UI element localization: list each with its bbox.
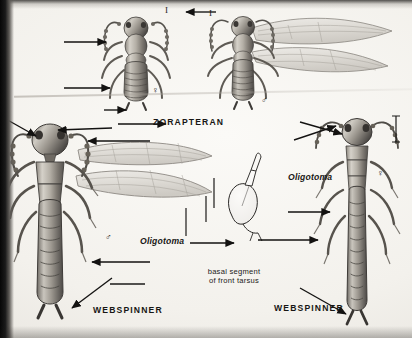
paper-background — [0, 0, 412, 338]
label-oligotoma-left: Oligotoma — [140, 236, 184, 246]
illustration-plate: ZORAPTERAN WEBSPINNER WEBSPINNER Oligoto… — [0, 0, 412, 338]
label-webspinner-right: WEBSPINNER — [274, 303, 344, 313]
label-webspinner-left: WEBSPINNER — [93, 305, 163, 315]
label-zorapteran: ZORAPTERAN — [153, 117, 224, 127]
symbol-webspinner-female: ♀ — [377, 168, 384, 178]
scan-shadow-left — [0, 0, 14, 338]
scale-mark-zorapteran-female: I — [209, 8, 213, 18]
caption-line-1: basal segment — [208, 267, 261, 276]
caption-line-2: of front tarsus — [209, 276, 259, 285]
caption-front-tarsus: basal segment of front tarsus — [190, 267, 278, 285]
scan-shadow-top — [0, 0, 412, 9]
symbol-zorapteran-male: ♂ — [261, 95, 268, 105]
scan-shadow-bottom — [0, 326, 412, 338]
label-oligotoma-right: Oligotoma — [288, 172, 332, 182]
symbol-webspinner-male: ♂ — [105, 232, 112, 242]
